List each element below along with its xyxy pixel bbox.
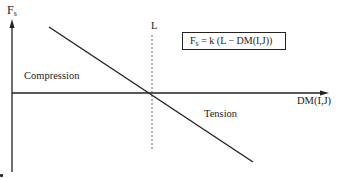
corner-mark [0,174,3,177]
y-axis-label-sub: s [14,9,17,18]
formula-text: Fs = k (L − DM(I,J)) [190,36,272,48]
formula-rhs: = k (L − DM(I,J)) [199,35,273,46]
spring-force-diagram: Fs DM(I,J) L Compression Tension Fs = k … [0,0,337,178]
reference-line-label: L [151,21,157,32]
tension-label: Tension [204,109,237,120]
y-axis-label-main: F [7,3,14,17]
x-axis-label: DM(I,J) [297,96,331,107]
diagram-graphics [0,0,337,178]
y-axis-arrow-icon [10,19,15,28]
compression-label: Compression [24,71,79,82]
y-axis-label: Fs [7,4,17,18]
